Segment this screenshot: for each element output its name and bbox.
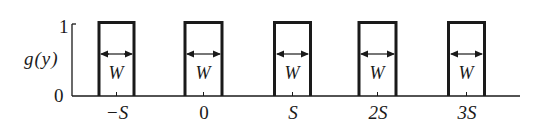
pulse-minus-s — [99, 23, 134, 97]
pulse-width-label: W — [109, 64, 124, 82]
pulse-width-label: W — [459, 64, 474, 82]
pulse-2s — [359, 23, 396, 97]
x-tick-label-s: S — [288, 103, 298, 122]
y-axis-bottom-value: 0 — [54, 86, 64, 105]
y-axis-top-value: 1 — [59, 17, 69, 36]
x-tick-label-3s: 3S — [458, 103, 477, 122]
x-tick-label-zero: 0 — [199, 103, 209, 122]
pulse-width-label: W — [196, 64, 211, 82]
y-axis-label: g(y) — [24, 49, 59, 68]
pulse-s — [275, 23, 311, 97]
pulse-zero — [185, 23, 222, 97]
y-axis — [72, 24, 76, 96]
pulse-width-label: W — [285, 64, 300, 82]
x-tick-label-2s: 2S — [369, 103, 388, 122]
x-tick-label-minus-s: −S — [106, 103, 128, 122]
pulse-width-label: W — [370, 64, 385, 82]
pulse-3s — [449, 23, 485, 97]
pulse-train-diagram: 1 0 g(y) W W W W W −S 0 S 2S 3S — [0, 0, 542, 128]
